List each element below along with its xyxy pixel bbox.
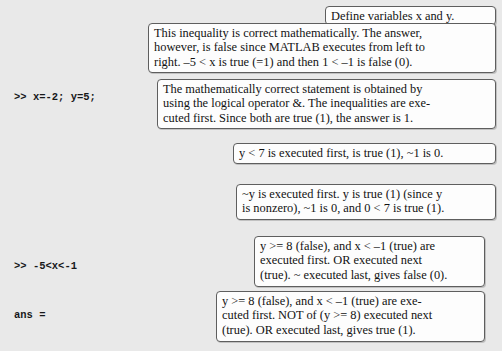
callout-and-operator-explanation: The mathematically correct statement is … bbox=[157, 79, 496, 129]
callout-not-then-or-explanation: y >= 8 (false), and x < –1 (true) are ex… bbox=[216, 291, 485, 342]
callout-line: ~y is executed first. y is true (1) (sin… bbox=[242, 187, 490, 201]
callout-line: cuted first. NOT of (y >= 8) executed ne… bbox=[222, 308, 479, 322]
callout-line: This inequality is correct mathematicall… bbox=[154, 26, 490, 40]
callout-line: y >= 8 (false), and x < –1 (true) are bbox=[260, 239, 479, 253]
callout-line: using the logical operator &. The inequa… bbox=[163, 96, 490, 110]
document-figure: >> x=-2; y=5; >> -5<x<-1 ans = 0 >> -5<x… bbox=[0, 0, 502, 351]
callout-chained-inequality-explanation: This inequality is correct mathematicall… bbox=[148, 23, 496, 73]
callout-not-of-or-explanation: y >= 8 (false), and x < –1 (true) are ex… bbox=[254, 236, 485, 287]
callout-line: (true). OR executed last, gives true (1)… bbox=[222, 323, 479, 337]
console-spacer bbox=[14, 171, 214, 177]
callout-line: Define variables x and y. bbox=[331, 9, 490, 23]
callout-not-y-explanation: ~y is executed first. y is true (1) (sin… bbox=[236, 184, 496, 220]
console-command: >> -5<x<-1 bbox=[14, 258, 214, 274]
callout-line: The mathematically correct statement is … bbox=[163, 82, 490, 96]
callout-line: right. –5 < x is true (=1) and then 1 < … bbox=[154, 55, 490, 69]
callout-line: however, is false since MATLAB executes … bbox=[154, 40, 490, 54]
callout-y-less-than-7-explanation: y < 7 is executed first, is true (1), ~1… bbox=[233, 143, 496, 164]
callout-line: y < 7 is executed first, is true (1), ~1… bbox=[239, 146, 490, 160]
callout-line: executed first. OR executed next bbox=[260, 253, 479, 267]
console-ans-label: ans = bbox=[14, 307, 214, 323]
callout-line: is nonzero), ~1 is 0, and 0 < 7 is true … bbox=[242, 201, 490, 215]
callout-line: (true). ~ executed last, gives false (0)… bbox=[260, 268, 479, 282]
console-block-chained-inequality: >> -5<x<-1 ans = 0 bbox=[14, 226, 214, 351]
callout-line: cuted first. Since both are true (1), th… bbox=[163, 111, 490, 125]
callout-line: y >= 8 (false), and x < –1 (true) are ex… bbox=[222, 294, 479, 308]
